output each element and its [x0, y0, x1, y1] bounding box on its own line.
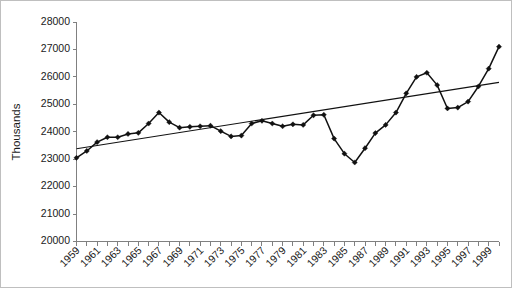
x-tick-label: 1979 [263, 244, 288, 269]
y-tick-label: 22000 [41, 179, 70, 191]
x-tick-label: 1965 [119, 244, 144, 269]
x-tick-label: 1959 [57, 244, 82, 269]
x-tick-label: 1963 [98, 244, 123, 269]
line-chart: 2800027000260002500024000230002200021000… [0, 0, 512, 288]
data-point-marker [280, 124, 285, 129]
y-tick-label: 24000 [41, 125, 70, 137]
data-point-markers [74, 44, 502, 165]
x-tick-label: 1985 [325, 244, 350, 269]
y-tick-label: 21000 [41, 207, 70, 219]
x-tick-label: 1997 [448, 244, 473, 269]
data-point-marker [290, 122, 295, 127]
x-tick-label: 1971 [181, 244, 206, 269]
x-tick-label: 1995 [428, 244, 453, 269]
chart-border [1, 1, 512, 288]
y-tick-label: 28000 [41, 15, 70, 27]
x-tick-label: 1983 [304, 244, 329, 269]
data-point-marker [187, 124, 192, 129]
x-axis-tick-marks [77, 242, 500, 247]
data-point-marker [125, 131, 130, 136]
y-tick-label: 27000 [41, 42, 70, 54]
y-tick-label: 23000 [41, 152, 70, 164]
x-tick-label: 1999 [469, 244, 494, 269]
x-tick-label: 1989 [366, 244, 391, 269]
x-tick-label: 1967 [139, 244, 164, 269]
x-tick-label: 1981 [284, 244, 309, 269]
x-tick-label: 1969 [160, 244, 185, 269]
x-tick-label: 1973 [201, 244, 226, 269]
y-axis-tick-labels: 2800027000260002500024000230002200021000… [41, 15, 70, 247]
y-tick-label: 26000 [41, 70, 70, 82]
data-point-marker [198, 124, 203, 129]
data-point-marker [270, 121, 275, 126]
data-point-marker [496, 44, 501, 49]
x-tick-label: 1991 [387, 244, 412, 269]
x-tick-label: 1977 [242, 244, 267, 269]
data-point-marker [445, 106, 450, 111]
trend-line [77, 82, 500, 148]
x-axis-tick-labels: 1959196119631965196719691971197319751977… [57, 244, 494, 269]
chart-container: 2800027000260002500024000230002200021000… [0, 0, 512, 288]
x-tick-label: 1961 [78, 244, 103, 269]
data-point-marker [228, 134, 233, 139]
data-point-marker [321, 112, 326, 117]
y-axis-title: Thousands [10, 103, 22, 160]
data-series-line [77, 47, 500, 163]
y-tick-label: 25000 [41, 97, 70, 109]
data-point-marker [105, 135, 110, 140]
x-tick-label: 1987 [345, 244, 370, 269]
y-tick-label: 20000 [41, 234, 70, 246]
data-point-marker [115, 135, 120, 140]
x-tick-label: 1975 [222, 244, 247, 269]
x-tick-label: 1993 [407, 244, 432, 269]
y-axis-tick-marks [73, 22, 77, 242]
